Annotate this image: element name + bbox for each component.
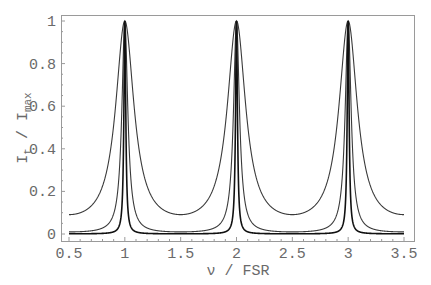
x-axis-ticks: 0.511.522.533.5 xyxy=(55,237,417,263)
y-axis-ticks: 00.20.40.60.81 xyxy=(29,14,65,244)
x-tick-label: 0.5 xyxy=(55,246,82,263)
y-axis-label: It / Imax xyxy=(15,92,34,164)
curve-high-finesse xyxy=(69,21,404,234)
transmission-chart: 0.511.522.533.5 00.20.40.60.81 ν / FSR I… xyxy=(0,0,431,285)
y-tick-label: 0 xyxy=(47,227,56,244)
x-tick-label: 2 xyxy=(232,246,241,263)
x-tick-label: 2.5 xyxy=(279,246,306,263)
x-tick-label: 1 xyxy=(120,246,129,263)
curves xyxy=(69,21,404,234)
x-tick-label: 1.5 xyxy=(167,246,194,263)
x-tick-label: 3 xyxy=(344,246,353,263)
y-tick-label: 0.8 xyxy=(29,57,56,74)
x-tick-label: 3.5 xyxy=(390,246,417,263)
y-tick-label: 1 xyxy=(47,14,56,31)
x-axis-label: ν / FSR xyxy=(206,263,269,280)
y-tick-label: 0.2 xyxy=(29,184,56,201)
